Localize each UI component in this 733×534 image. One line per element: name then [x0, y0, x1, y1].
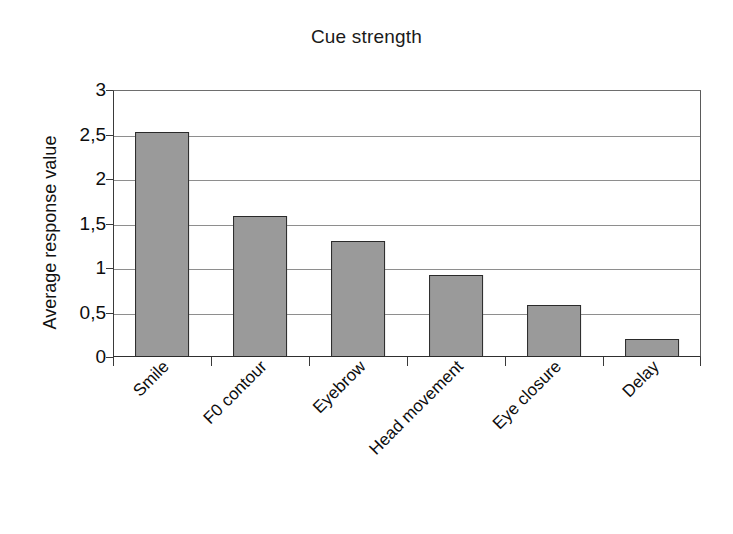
x-axis-tick-label: Eyebrow: [309, 357, 370, 418]
chart-title: Cue strength: [0, 26, 733, 48]
x-axis-tick-label: Smile: [130, 357, 174, 401]
y-axis-tick-mark: [106, 268, 113, 269]
bar[interactable]: [233, 216, 287, 357]
x-axis-tick-label: F0 contour: [200, 357, 272, 429]
y-axis-tick-mark: [106, 90, 113, 91]
bar-chart: Cue strength Average response value 00,5…: [0, 0, 733, 534]
bar-slot: [603, 90, 701, 357]
bar-slot: [113, 90, 211, 357]
x-axis-tick-label: Delay: [619, 357, 664, 402]
bar-slot: [211, 90, 309, 357]
x-axis-tick-labels: SmileF0 contourEyebrowHead movementEye c…: [113, 357, 701, 507]
y-axis-tick-mark: [106, 179, 113, 180]
bar[interactable]: [625, 339, 679, 357]
y-axis-tick-mark: [106, 313, 113, 314]
bar[interactable]: [135, 132, 189, 357]
y-axis-tick-marks: [0, 90, 113, 357]
bar-series: [113, 90, 701, 357]
x-axis-tick-label: Eye closure: [489, 357, 566, 434]
y-axis-tick-mark: [106, 357, 113, 358]
y-axis-tick-mark: [106, 135, 113, 136]
bar[interactable]: [527, 305, 581, 358]
bar[interactable]: [429, 275, 483, 357]
x-axis-tick-label: Head movement: [365, 357, 467, 459]
y-axis-tick-mark: [106, 224, 113, 225]
bar[interactable]: [331, 241, 385, 357]
bar-slot: [505, 90, 603, 357]
bar-slot: [309, 90, 407, 357]
bar-slot: [407, 90, 505, 357]
